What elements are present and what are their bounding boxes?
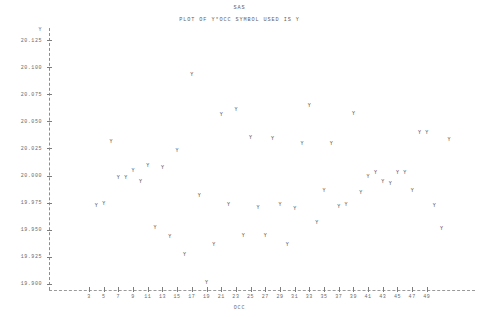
- data-point: Y: [183, 252, 186, 257]
- data-point: Y: [381, 180, 384, 185]
- x-tick-mark: [177, 287, 178, 292]
- x-axis-line: [49, 290, 475, 291]
- data-point: Y: [132, 168, 135, 173]
- y-tick-label: 20.100: [0, 65, 42, 71]
- x-tick-mark: [368, 287, 369, 292]
- x-tick-mark: [236, 287, 237, 292]
- x-tick-label: 45: [389, 294, 405, 300]
- data-point: Y: [359, 190, 362, 195]
- x-tick-label: 17: [184, 294, 200, 300]
- data-point: Y: [249, 136, 252, 141]
- y-tick-label: 19.900: [0, 281, 42, 287]
- data-point: Y: [168, 235, 171, 240]
- x-tick-label: 47: [404, 294, 420, 300]
- y-tick-label: 20.000: [0, 173, 42, 179]
- data-point: Y: [308, 104, 311, 109]
- x-tick-mark: [295, 287, 296, 292]
- x-tick-mark: [148, 287, 149, 292]
- x-tick-mark: [207, 287, 208, 292]
- x-tick-mark: [427, 287, 428, 292]
- y-tick-mark: [47, 40, 52, 41]
- x-tick-label: 15: [169, 294, 185, 300]
- x-tick-mark: [104, 287, 105, 292]
- y-tick-label: 19.975: [0, 200, 42, 206]
- x-tick-mark: [324, 287, 325, 292]
- y-tick-mark: [47, 121, 52, 122]
- data-point: Y: [234, 108, 237, 113]
- x-tick-mark: [412, 287, 413, 292]
- data-point: Y: [433, 204, 436, 209]
- data-point: Y: [330, 141, 333, 146]
- y-tick-mark: [47, 230, 52, 231]
- x-tick-label: 23: [228, 294, 244, 300]
- x-tick-label: 7: [110, 294, 126, 300]
- y-tick-mark: [47, 94, 52, 95]
- x-axis-label: OCC: [0, 305, 479, 311]
- data-point: Y: [256, 206, 259, 211]
- x-tick-mark: [265, 287, 266, 292]
- data-point: Y: [447, 137, 450, 142]
- x-tick-mark: [221, 287, 222, 292]
- data-point: Y: [411, 189, 414, 194]
- data-point: Y: [367, 174, 370, 179]
- x-tick-mark: [251, 287, 252, 292]
- data-point: Y: [205, 280, 208, 285]
- y-axis-label: Y: [0, 27, 42, 33]
- scatter-plot: Y OCC 20.12520.10020.07520.05020.02520.0…: [0, 0, 479, 317]
- x-tick-mark: [118, 287, 119, 292]
- x-tick-mark: [397, 287, 398, 292]
- x-tick-label: 21: [213, 294, 229, 300]
- data-point: Y: [146, 163, 149, 168]
- data-point: Y: [440, 226, 443, 231]
- x-tick-mark: [383, 287, 384, 292]
- x-tick-mark: [192, 287, 193, 292]
- y-tick-mark: [47, 176, 52, 177]
- data-point: Y: [345, 203, 348, 208]
- data-point: Y: [117, 176, 120, 181]
- data-point: Y: [264, 233, 267, 238]
- plot-page: SAS PLOT OF Y*OCC SYMBOL USED IS Y Y OCC…: [0, 0, 479, 317]
- x-tick-mark: [89, 287, 90, 292]
- data-point: Y: [154, 225, 157, 230]
- x-tick-label: 35: [316, 294, 332, 300]
- y-tick-label: 19.925: [0, 254, 42, 260]
- data-point: Y: [110, 140, 113, 145]
- data-point: Y: [198, 194, 201, 199]
- x-tick-label: 41: [360, 294, 376, 300]
- x-tick-label: 29: [272, 294, 288, 300]
- x-tick-label: 31: [287, 294, 303, 300]
- data-point: Y: [124, 176, 127, 181]
- data-point: Y: [323, 188, 326, 193]
- data-point: Y: [374, 171, 377, 176]
- data-point: Y: [418, 130, 421, 135]
- data-point: Y: [337, 205, 340, 210]
- y-tick-mark: [47, 203, 52, 204]
- x-tick-label: 3: [81, 294, 97, 300]
- data-point: Y: [286, 243, 289, 248]
- y-tick-mark: [47, 257, 52, 258]
- x-tick-mark: [353, 287, 354, 292]
- x-tick-mark: [162, 287, 163, 292]
- y-tick-mark: [47, 148, 52, 149]
- x-tick-label: 43: [375, 294, 391, 300]
- y-tick-label: 20.025: [0, 146, 42, 152]
- data-point: Y: [352, 111, 355, 116]
- data-point: Y: [425, 130, 428, 135]
- x-tick-label: 25: [243, 294, 259, 300]
- y-tick-mark: [47, 284, 52, 285]
- data-point: Y: [315, 221, 318, 226]
- x-tick-label: 11: [140, 294, 156, 300]
- data-point: Y: [403, 170, 406, 175]
- x-tick-label: 5: [96, 294, 112, 300]
- x-tick-mark: [309, 287, 310, 292]
- data-point: Y: [389, 182, 392, 187]
- y-tick-label: 20.125: [0, 38, 42, 44]
- x-tick-label: 39: [345, 294, 361, 300]
- x-tick-label: 37: [331, 294, 347, 300]
- y-tick-label: 20.075: [0, 92, 42, 98]
- data-point: Y: [396, 170, 399, 175]
- data-point: Y: [102, 201, 105, 206]
- data-point: Y: [190, 72, 193, 77]
- x-tick-label: 33: [301, 294, 317, 300]
- x-tick-label: 27: [257, 294, 273, 300]
